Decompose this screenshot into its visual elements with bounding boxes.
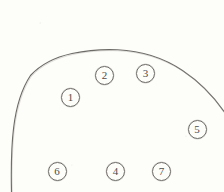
- marker-3-label: 3: [143, 68, 149, 79]
- figure-canvas: 1 2 3 4 5 6 7: [0, 0, 224, 192]
- marker-5-label: 5: [194, 124, 200, 135]
- marker-3[interactable]: 3: [136, 64, 155, 83]
- marker-2-label: 2: [102, 69, 108, 80]
- marker-5[interactable]: 5: [188, 120, 207, 139]
- marker-6-label: 6: [54, 166, 60, 177]
- marker-6[interactable]: 6: [48, 162, 67, 181]
- marker-4[interactable]: 4: [106, 162, 125, 181]
- marker-1[interactable]: 1: [61, 88, 80, 107]
- marker-7-label: 7: [159, 166, 165, 177]
- marker-7[interactable]: 7: [152, 162, 171, 181]
- marker-2[interactable]: 2: [95, 66, 114, 85]
- marker-1-label: 1: [68, 91, 74, 102]
- marker-4-label: 4: [113, 166, 119, 177]
